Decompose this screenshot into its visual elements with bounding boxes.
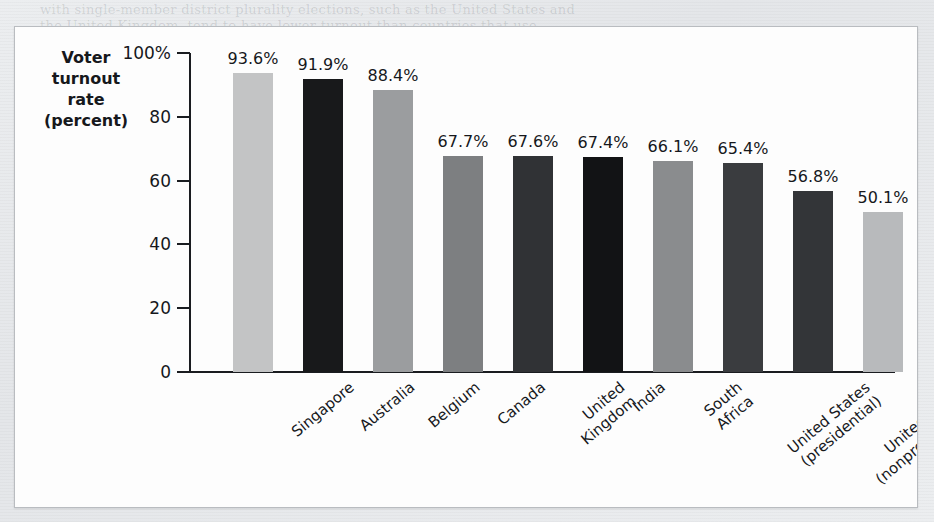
bar (513, 156, 553, 372)
bar (443, 156, 483, 372)
y-axis-tick (177, 243, 190, 245)
bar (653, 161, 693, 372)
bar (233, 73, 273, 372)
bar (373, 90, 413, 372)
chart-panel: Voterturnoutrate(percent) 100%806040200 … (14, 26, 918, 508)
y-axis-tick (177, 371, 190, 373)
x-axis-category-label: Singapore (289, 379, 358, 441)
bar (793, 191, 833, 372)
y-axis-line (189, 53, 191, 372)
bar (583, 157, 623, 372)
x-axis-category-label: Belgium (425, 379, 483, 432)
bar (723, 163, 763, 372)
bar-value-label: 91.9% (298, 55, 349, 74)
bar (303, 79, 343, 372)
y-axis-tick (177, 307, 190, 309)
x-axis-category-label: Canada (494, 379, 549, 429)
x-axis-category-label: South Africa (701, 379, 757, 434)
y-axis-tick-label: 100% (122, 43, 171, 63)
y-axis-tick-label: 40 (149, 234, 171, 254)
y-axis-tick (177, 52, 190, 54)
x-axis-category-label: Australia (357, 379, 419, 435)
plot-area: 100%806040200 93.6%91.9%88.4%67.7%67.6%6… (15, 27, 917, 507)
bar-value-label: 66.1% (648, 137, 699, 156)
bar-value-label: 67.4% (578, 133, 629, 152)
x-axis-category-label: India (630, 379, 670, 416)
bar-value-label: 56.8% (788, 167, 839, 186)
y-axis-tick (177, 180, 190, 182)
y-axis-tick (177, 116, 190, 118)
y-axis-tick-label: 20 (149, 298, 171, 318)
y-axis-tick-label: 0 (160, 362, 171, 382)
bar-value-label: 67.6% (508, 132, 559, 151)
y-axis-tick-label: 80 (149, 107, 171, 127)
bar-value-label: 65.4% (718, 139, 769, 158)
bar-value-label: 50.1% (858, 188, 909, 207)
ghost-text-line: with single-member district plurality el… (40, 2, 575, 17)
bar-value-label: 67.7% (438, 132, 489, 151)
x-axis-category-label: United Kingdom (567, 379, 641, 449)
y-axis-tick-label: 60 (149, 171, 171, 191)
bar-value-label: 88.4% (368, 66, 419, 85)
bar (863, 212, 903, 372)
figure-page: with single-member district plurality el… (0, 0, 934, 522)
bar-value-label: 93.6% (228, 49, 279, 68)
